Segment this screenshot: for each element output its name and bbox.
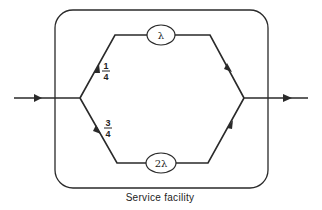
service-facility-caption: Service facility	[126, 192, 195, 203]
upper-prob-denominator: 4	[103, 72, 108, 82]
upper-probability-label: 1 4	[102, 61, 110, 82]
lower-out-arrow-icon	[227, 120, 233, 129]
upper-branch-out	[174, 35, 244, 98]
lower-probability-label: 3 4	[104, 118, 112, 139]
lower-branch-out	[174, 98, 244, 163]
lower-prob-denominator: 4	[105, 129, 110, 139]
lower-branch-in	[80, 98, 148, 163]
upper-branch-arrow-icon	[94, 64, 100, 73]
server-lower-rate: 2λ	[155, 158, 168, 169]
upper-branch-in	[80, 35, 148, 98]
upper-prob-numerator: 1	[103, 61, 108, 71]
server-upper-rate: λ	[158, 30, 165, 41]
input-arrow-icon	[34, 94, 42, 102]
service-facility-diagram: λ 2λ 1 4 3 4 Service facility	[0, 0, 322, 210]
output-arrow-icon	[283, 94, 292, 102]
lower-prob-numerator: 3	[105, 118, 110, 128]
